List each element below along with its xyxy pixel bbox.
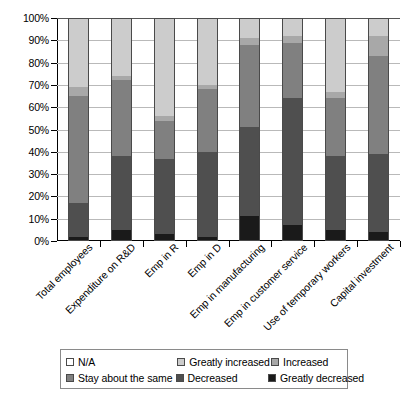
bar-column: [111, 18, 132, 241]
bar-segment: [239, 127, 260, 216]
bar-column: [154, 18, 175, 241]
stacked-bar-chart: 0%10%20%30%40%50%60%70%80%90%100% Total …: [0, 0, 406, 404]
y-axis-tick-label: 100%: [23, 12, 49, 24]
bar-segment: [325, 98, 346, 156]
bar-segment: [68, 203, 89, 236]
bar-segment: [111, 80, 132, 156]
bar-segment: [197, 85, 218, 89]
y-axis-tick-label: 20%: [29, 190, 49, 202]
legend-item: Stay about the same: [66, 372, 176, 384]
bar-stack: [197, 18, 218, 241]
bar-segment: [68, 87, 89, 96]
bar-segment: [239, 18, 260, 38]
legend-label: N/A: [78, 356, 95, 368]
y-axis-tick-label: 70%: [29, 79, 49, 91]
bar-segment: [197, 18, 218, 85]
bar-segment: [239, 216, 260, 241]
bar-segment: [325, 156, 346, 230]
bar-segment: [154, 121, 175, 159]
legend-item: Increased: [271, 356, 342, 368]
chart-legend: N/AGreatly increasedIncreased Stay about…: [60, 349, 348, 389]
bars-layer: [57, 18, 400, 241]
bar-segment: [197, 152, 218, 237]
bar-stack: [68, 18, 89, 241]
x-axis-tick: [400, 241, 401, 247]
bar-column: [325, 18, 346, 241]
bar-segment: [239, 38, 260, 45]
legend-row-bottom: Stay about the sameDecreasedGreatly decr…: [66, 370, 342, 386]
bar-segment: [282, 36, 303, 43]
y-axis-tick-label: 30%: [29, 168, 49, 180]
x-axis-label: Emp in customer service: [221, 241, 309, 329]
bar-stack: [368, 18, 389, 241]
x-axis-labels: Total employeesExpenditure on R&DEmp in …: [57, 241, 400, 341]
bar-column: [282, 18, 303, 241]
bar-segment: [325, 18, 346, 92]
legend-item: N/A: [66, 356, 177, 368]
bar-segment: [325, 230, 346, 241]
y-axis-tick-label: 0%: [34, 235, 49, 247]
legend-label: Greatly decreased: [280, 372, 364, 384]
bar-segment: [154, 159, 175, 235]
y-axis-tick-label: 90%: [29, 34, 49, 46]
legend-swatch: [177, 358, 185, 366]
bar-column: [197, 18, 218, 241]
bar-segment: [111, 230, 132, 241]
y-axis-tick-label: 40%: [29, 146, 49, 158]
bar-segment: [325, 92, 346, 99]
bar-segment: [368, 232, 389, 241]
x-axis-label: Use of temporary workers: [260, 241, 352, 333]
bar-column: [239, 18, 260, 241]
x-axis-label: Emp in R: [142, 241, 180, 279]
bar-stack: [282, 18, 303, 241]
bar-segment: [111, 18, 132, 76]
bar-column: [368, 18, 389, 241]
bar-segment: [368, 36, 389, 56]
bar-stack: [325, 18, 346, 241]
bar-stack: [154, 18, 175, 241]
bar-segment: [282, 225, 303, 241]
y-axis-tick-label: 50%: [29, 124, 49, 136]
legend-label: Decreased: [188, 372, 238, 384]
legend-row-top: N/AGreatly increasedIncreased: [66, 354, 342, 370]
x-axis-label: Emp in manufacturing: [187, 241, 266, 320]
bar-segment: [197, 89, 218, 151]
bar-stack: [239, 18, 260, 241]
bar-column: [68, 18, 89, 241]
legend-swatch: [271, 358, 279, 366]
bar-segment: [68, 96, 89, 203]
bar-segment: [68, 18, 89, 87]
legend-label: Increased: [283, 356, 328, 368]
bar-segment: [282, 43, 303, 99]
bar-segment: [368, 154, 389, 232]
bar-segment: [111, 76, 132, 80]
bar-segment: [282, 98, 303, 225]
plot-area: 0%10%20%30%40%50%60%70%80%90%100%: [57, 18, 400, 241]
legend-swatch: [268, 374, 276, 382]
bar-segment: [154, 116, 175, 120]
y-axis-tick-label: 60%: [29, 101, 49, 113]
y-axis-tick-label: 10%: [29, 213, 49, 225]
bar-segment: [239, 45, 260, 128]
bar-segment: [282, 18, 303, 36]
bar-segment: [368, 18, 389, 36]
legend-swatch: [176, 374, 184, 382]
y-axis-tick-label: 80%: [29, 57, 49, 69]
legend-swatch: [66, 374, 74, 382]
legend-label: Greatly increased: [189, 356, 270, 368]
x-axis-label: Emp in D: [185, 241, 223, 279]
bar-segment: [154, 18, 175, 116]
legend-swatch: [66, 358, 74, 366]
bar-segment: [111, 156, 132, 230]
legend-item: Greatly increased: [177, 356, 271, 368]
bar-stack: [111, 18, 132, 241]
legend-item: Decreased: [176, 372, 269, 384]
bar-segment: [368, 56, 389, 154]
legend-label: Stay about the same: [78, 372, 172, 384]
legend-item: Greatly decreased: [268, 372, 342, 384]
